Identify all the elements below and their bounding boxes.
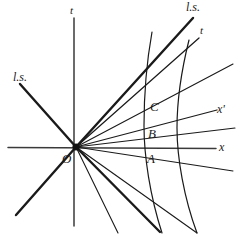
x-axis-line <box>8 148 216 149</box>
light-signal-left-label: l.s. <box>13 71 27 83</box>
event-c-label: C <box>150 100 159 113</box>
x-axis-label: x <box>219 141 224 153</box>
t-prime-axis-label: t <box>200 25 203 36</box>
worldline-past-2-line <box>76 147 118 233</box>
origin-marker <box>72 143 79 150</box>
event-a-label: A <box>147 152 155 165</box>
spacetime-diagram: O t l.s. t x' x l.s. C B A <box>0 0 241 240</box>
origin-dot <box>72 143 79 150</box>
light-cone-group <box>16 18 193 232</box>
event-b-label: B <box>148 127 156 140</box>
invariant-hyperbola-outer-curve <box>177 40 197 233</box>
light-signal-upper-left-line <box>20 84 76 147</box>
light-signal-upper-right-line <box>76 18 193 147</box>
origin-label: O <box>62 152 71 165</box>
diagram-canvas <box>0 0 241 240</box>
x-prime-axis-label: x' <box>217 103 225 115</box>
light-signal-right-label: l.s. <box>186 1 200 13</box>
t-axis-label: t <box>70 5 73 16</box>
axes-group <box>8 18 216 226</box>
